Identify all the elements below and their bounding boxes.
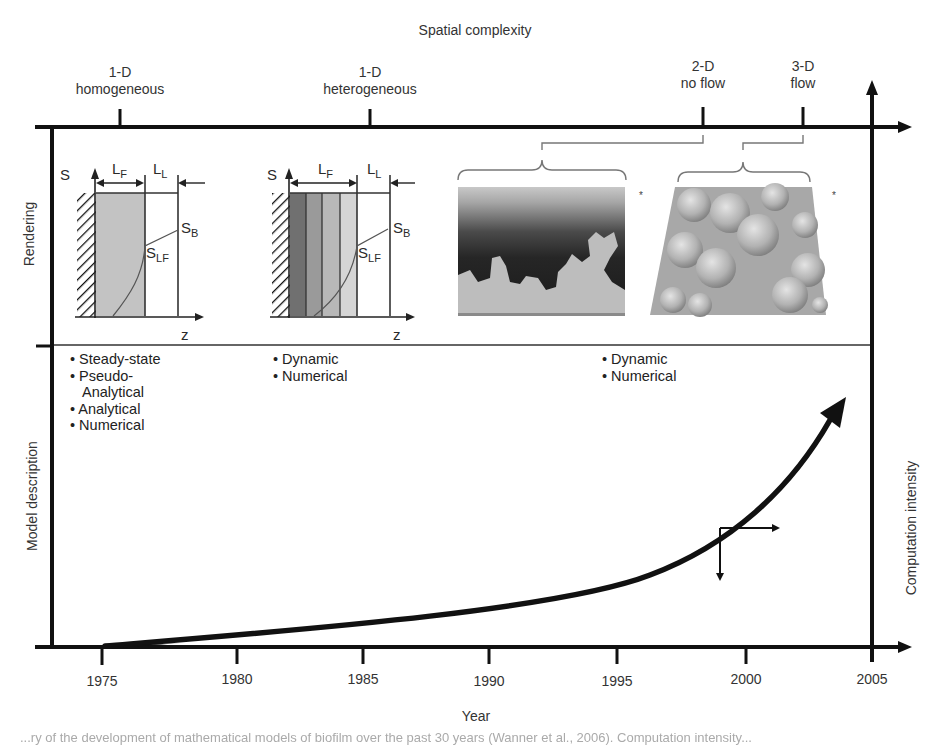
s-axis-label: S xyxy=(60,166,70,183)
year-axis xyxy=(35,641,912,665)
year-tick-1995: 1995 xyxy=(587,673,647,689)
computation-intensity-axis xyxy=(866,80,878,662)
list-item: • Dynamic xyxy=(273,351,347,368)
spatial-complexity-axis xyxy=(35,107,912,133)
homogeneous-biofilm-schematic xyxy=(75,168,205,321)
list-item: • Numerical xyxy=(602,368,676,385)
figure-caption: ...ry of the development of mathematical… xyxy=(20,730,752,745)
category-line2: flow xyxy=(773,75,833,92)
computation-intensity-label: Computation intensity xyxy=(903,443,919,613)
slf-label: SLF xyxy=(146,244,169,264)
computation-growth-curve xyxy=(105,397,846,649)
list-item: • Dynamic xyxy=(602,351,676,368)
category-line1: 3-D xyxy=(773,58,833,75)
category-2d-no-flow: 2-D no flow xyxy=(663,58,743,92)
year-tick-2000: 2000 xyxy=(716,671,776,687)
category-3d-flow: 3-D flow xyxy=(773,58,833,92)
category-line2: heterogeneous xyxy=(305,81,435,98)
model-list-homogeneous: • Steady-state • Pseudo- Analytical • An… xyxy=(70,351,161,434)
row-label-rendering: Rendering xyxy=(21,184,37,284)
row-label-model-description: Model description xyxy=(24,421,40,571)
asterisk-3d: * xyxy=(832,190,836,201)
model-list-heterogeneous: • Dynamic • Numerical xyxy=(273,351,347,384)
slf-label: SLF xyxy=(358,244,381,264)
category-line2: homogeneous xyxy=(60,81,180,98)
sb-label: SB xyxy=(181,219,198,239)
year-tick-1975: 1975 xyxy=(72,673,132,689)
list-item: • Numerical xyxy=(70,417,161,434)
z-axis-label: z xyxy=(181,326,189,343)
year-tick-1980: 1980 xyxy=(207,671,267,687)
z-axis-label: z xyxy=(393,326,401,343)
category-line1: 2-D xyxy=(663,58,743,75)
ll-label: LL xyxy=(367,160,381,180)
lf-label: LF xyxy=(112,160,127,180)
year-tick-1990: 1990 xyxy=(459,673,519,689)
heterogeneous-biofilm-schematic xyxy=(270,168,415,321)
model-list-multidimensional: • Dynamic • Numerical xyxy=(602,351,676,384)
dimension-braces xyxy=(458,135,810,182)
s-axis-label: S xyxy=(267,166,277,183)
ll-label: LL xyxy=(153,160,167,180)
category-line1: 1-D xyxy=(60,64,180,81)
year-tick-2005: 2005 xyxy=(842,671,902,687)
list-item: • Analytical xyxy=(70,401,161,418)
asterisk-2d: * xyxy=(639,190,643,201)
sb-label: SB xyxy=(393,219,410,239)
category-line2: no flow xyxy=(663,75,743,92)
lf-label: LF xyxy=(318,160,333,180)
list-item: • Steady-state xyxy=(70,351,161,368)
category-line1: 1-D xyxy=(305,64,435,81)
list-item: • Pseudo- xyxy=(70,368,161,385)
category-1d-heterogeneous: 1-D heterogeneous xyxy=(305,64,435,98)
list-item: • Numerical xyxy=(273,368,347,385)
3d-biofilm-rendering xyxy=(650,183,828,317)
year-axis-label: Year xyxy=(446,708,506,725)
category-1d-homogeneous: 1-D homogeneous xyxy=(60,64,180,98)
2d-biofilm-rendering xyxy=(458,187,625,316)
list-item: Analytical xyxy=(70,384,161,401)
year-tick-1985: 1985 xyxy=(333,671,393,687)
spatial-complexity-label: Spatial complexity xyxy=(410,22,540,39)
